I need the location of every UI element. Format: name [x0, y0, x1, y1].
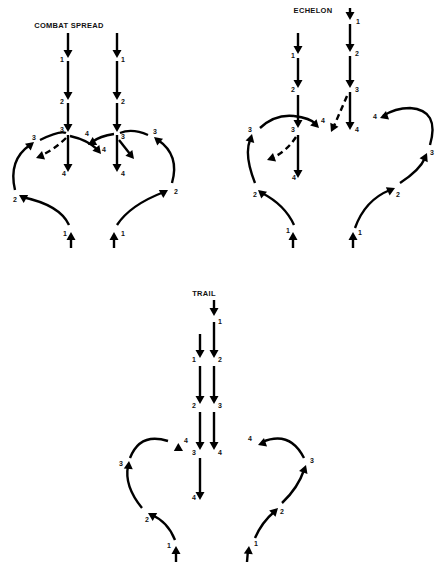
position-label: 3 [355, 86, 359, 93]
echelon-title: ECHELON [294, 6, 333, 15]
position-label: 2 [280, 508, 284, 515]
position-label: 1 [60, 56, 64, 63]
arrowhead-icon [67, 232, 76, 240]
arrowhead-icon [349, 232, 358, 240]
flight-path [13, 145, 30, 190]
arrowhead-icon [346, 44, 355, 52]
position-label: 4 [292, 174, 296, 181]
position-label: 2 [291, 86, 295, 93]
position-label: 4 [62, 170, 66, 177]
position-label: 3 [121, 133, 125, 140]
flight-path [22, 197, 69, 225]
position-label: 1 [291, 52, 295, 59]
flight-path [248, 140, 255, 183]
flight-path [400, 158, 425, 183]
flight-path [119, 140, 130, 154]
position-label: 4 [218, 449, 222, 456]
arrowhead-icon [299, 463, 310, 474]
position-label: 3 [291, 126, 295, 133]
trail-panel: TRAIL 1122334443211234 [119, 289, 314, 562]
arrowhead-icon [64, 124, 73, 132]
arrowhead-icon [64, 50, 73, 58]
position-label: 4 [373, 113, 377, 120]
dashed-flight-path [334, 96, 347, 126]
flight-path [260, 116, 294, 128]
arrowhead-icon [113, 124, 122, 132]
position-label: 1 [218, 318, 222, 325]
arrowhead-icon [64, 92, 73, 100]
position-label: 3 [32, 134, 36, 141]
arrowhead-icon [210, 308, 219, 316]
arrowhead-icon [196, 350, 205, 358]
position-label: 3 [430, 149, 434, 156]
arrowhead-icon [172, 546, 181, 554]
position-label: 4 [121, 170, 125, 177]
position-label: 3 [192, 449, 196, 456]
arrowhead-icon [244, 546, 254, 555]
position-label: 2 [60, 98, 64, 105]
position-label: 1 [356, 18, 360, 25]
position-label: 2 [192, 402, 196, 409]
combat-spread-title: COMBAT SPREAD [34, 21, 104, 30]
position-label: 4 [184, 437, 188, 444]
arrowhead-icon [346, 12, 355, 20]
position-label: 4 [85, 130, 89, 137]
combat-spread-panel: COMBAT SPREAD 1234432112344321 [13, 21, 178, 248]
position-label: 2 [253, 191, 257, 198]
echelon-panel: ECHELON 1234123443211234 [246, 6, 434, 248]
arrowhead-icon [196, 442, 205, 450]
arrowhead-icon [17, 191, 28, 203]
dashed-flight-path [40, 138, 66, 156]
arrowhead-icon [196, 492, 205, 500]
position-label: 1 [121, 56, 125, 63]
position-label: 1 [358, 229, 362, 236]
position-label: 1 [192, 356, 196, 363]
position-label: 3 [310, 457, 314, 464]
trail-title: TRAIL [192, 289, 216, 298]
position-label: 3 [60, 126, 64, 133]
flight-path [152, 515, 175, 540]
flight-path [158, 140, 174, 183]
position-label: 4 [355, 126, 359, 133]
arrowhead-icon [124, 461, 134, 470]
position-label: 4 [321, 117, 325, 124]
arrowhead-icon [159, 186, 170, 198]
position-label: 3 [218, 402, 222, 409]
position-label: 3 [248, 126, 252, 133]
flight-path [262, 193, 294, 225]
position-label: 4 [192, 494, 196, 501]
position-label: 3 [119, 460, 123, 467]
flight-path [40, 132, 66, 140]
position-label: 2 [396, 191, 400, 198]
position-label: 1 [63, 230, 67, 237]
position-label: 1 [121, 230, 125, 237]
flight-path [255, 512, 274, 538]
position-label: 2 [145, 516, 149, 523]
position-label: 4 [102, 146, 106, 153]
flight-path [383, 108, 433, 145]
position-label: 1 [286, 227, 290, 234]
arrowhead-icon [110, 232, 119, 240]
flight-path [127, 466, 142, 508]
arrowhead-icon [346, 122, 355, 130]
flight-path [262, 438, 304, 458]
position-label: 2 [13, 196, 17, 203]
arrowhead-icon [246, 133, 257, 143]
flight-path [355, 190, 390, 228]
position-label: 2 [355, 50, 359, 57]
arrowhead-icon [174, 443, 185, 455]
position-label: 4 [248, 435, 252, 442]
flight-path [117, 192, 164, 225]
flight-path [282, 470, 304, 503]
formation-diagram: COMBAT SPREAD 1234432112344321 ECHELON 1… [0, 0, 442, 573]
flight-path [92, 134, 114, 142]
dashed-flight-path [272, 137, 296, 158]
arrowhead-icon [196, 396, 205, 404]
arrowhead-icon [34, 151, 45, 162]
flight-path [130, 439, 168, 458]
position-label: 1 [167, 542, 171, 549]
position-label: 2 [121, 98, 125, 105]
arrowhead-icon [327, 123, 339, 134]
position-label: 2 [218, 356, 222, 363]
position-label: 1 [254, 540, 258, 547]
